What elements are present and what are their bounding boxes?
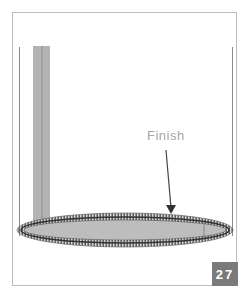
arrow-head-icon (166, 205, 176, 214)
finish-label: Finish (147, 128, 185, 143)
step-number-badge: 27 (212, 262, 238, 286)
base-fill (24, 220, 226, 240)
arrow-line (166, 150, 171, 208)
crochet-diagram (0, 0, 249, 297)
